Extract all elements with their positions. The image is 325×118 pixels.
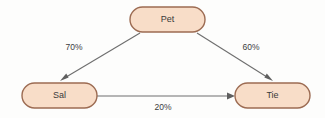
edge-pet-sal-label: 70% xyxy=(65,42,82,52)
edge-sal-tie[interactable]: 20% xyxy=(97,93,235,113)
diagram-canvas: 70% 60% 20% Pet Sal Tie xyxy=(0,0,325,118)
node-tie[interactable]: Tie xyxy=(235,83,310,108)
edge-pet-sal[interactable]: 70% xyxy=(60,33,140,81)
edge-pet-tie-arrowhead xyxy=(264,74,273,81)
node-pet[interactable]: Pet xyxy=(130,7,205,32)
node-sal[interactable]: Sal xyxy=(22,83,97,108)
edge-pet-sal-line xyxy=(65,33,141,78)
edge-pet-tie[interactable]: 60% xyxy=(197,33,273,81)
edge-sal-tie-arrowhead xyxy=(227,93,235,100)
node-tie-label: Tie xyxy=(266,90,278,100)
edge-pet-tie-line xyxy=(197,33,269,78)
node-sal-label: Sal xyxy=(53,90,66,100)
node-pet-label: Pet xyxy=(161,14,175,24)
edge-pet-tie-label: 60% xyxy=(242,42,259,52)
edge-pet-sal-arrowhead xyxy=(60,74,69,81)
edge-sal-tie-label: 20% xyxy=(154,102,171,112)
diagram-svg: 70% 60% 20% Pet Sal Tie xyxy=(0,0,325,118)
